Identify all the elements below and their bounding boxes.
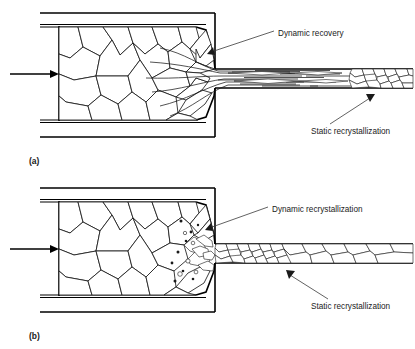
billet-grain-structure-b [59, 202, 199, 295]
panel-label-a: (a) [29, 156, 40, 166]
annotation-dynamic-recrystallization-b: Dynamic recrystallization [205, 205, 363, 231]
panel-b: Dynamic recrystallization Static recryst… [10, 188, 413, 341]
static-recrystallized-grains-b [282, 244, 413, 263]
annotation-static-recrystallization-b: Static recrystallization [286, 270, 391, 311]
static-recrystallization-label-a: Static recrystallization [311, 127, 391, 136]
figure-root: Dynamic recovery Static recrystallizatio… [0, 0, 415, 349]
billet-grain-structure-a [59, 27, 199, 120]
annotation-dynamic-recovery-a: Dynamic recovery [207, 29, 344, 55]
static-recrystallization-label-b: Static recrystallization [311, 302, 391, 311]
ram-direction-arrow-b [10, 245, 59, 253]
annotation-static-recrystallization-a: Static recrystallization [311, 94, 391, 136]
extrusion-diagram: Dynamic recovery Static recrystallizatio… [0, 0, 415, 349]
dynamic-recovery-label: Dynamic recovery [278, 29, 344, 38]
dynamic-recrystallization-label: Dynamic recrystallization [272, 205, 363, 214]
panel-a: Dynamic recovery Static recrystallizatio… [10, 13, 413, 166]
static-recrystallized-grains-a [349, 69, 413, 88]
panel-label-b: (b) [29, 331, 40, 341]
fine-recrystallized-grains-b [215, 244, 291, 263]
ram-direction-arrow-a [10, 70, 59, 78]
